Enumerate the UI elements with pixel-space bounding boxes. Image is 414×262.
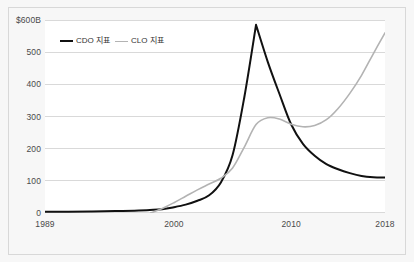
y-tick-label: 400 — [27, 79, 41, 89]
legend-entry-clo: CLO 지표 — [115, 37, 164, 45]
y-tick-label: 200 — [27, 144, 41, 154]
legend-swatch-clo-icon — [115, 41, 128, 42]
y-tick-label: 300 — [27, 112, 41, 122]
legend-entry-cdo: CDO 지표 — [60, 37, 110, 45]
x-tick-label: 2018 — [375, 219, 394, 229]
x-tick-label: 2010 — [282, 219, 301, 229]
x-axis-tick-labels: 1989200020102018 — [0, 219, 414, 235]
y-tick-label: 500 — [27, 47, 41, 57]
chart-figure: $600B5004003002001000 1989200020102018 C… — [0, 0, 414, 262]
x-tick-label: 2000 — [164, 219, 183, 229]
legend-label-clo: CLO 지표 — [131, 37, 164, 45]
plot-area — [45, 20, 385, 213]
series-line-cdo — [45, 25, 385, 212]
chart-svg — [45, 20, 385, 213]
y-tick-label: 0 — [36, 208, 41, 218]
legend-swatch-cdo-icon — [60, 40, 73, 42]
x-tick-label: 1989 — [35, 219, 54, 229]
legend-label-cdo: CDO 지표 — [76, 37, 110, 45]
y-tick-label: 100 — [27, 176, 41, 186]
y-tick-label: $600B — [16, 15, 41, 25]
chart-legend: CDO 지표 CLO 지표 — [60, 37, 164, 45]
